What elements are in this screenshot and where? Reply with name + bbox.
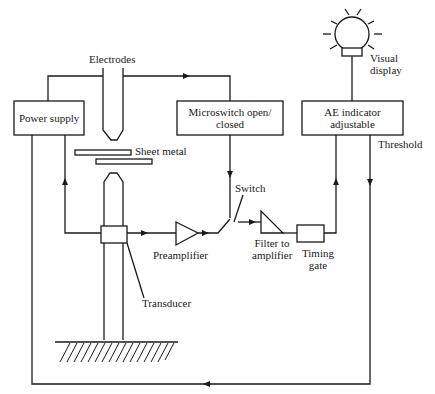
label-microswitch-line2: closed — [177, 118, 283, 130]
label-visual-line1: Visual — [370, 52, 402, 64]
label-timing-line2: gate — [298, 259, 338, 271]
label-timing-line1: Timing — [298, 247, 338, 259]
preamplifier-triangle — [176, 222, 198, 245]
arrow-left-icon — [203, 381, 210, 387]
arrow-up-icon — [333, 178, 339, 185]
arrow-right-icon — [183, 73, 190, 79]
wire-electrode-to-microswitch — [48, 76, 230, 101]
switch-pointer — [234, 195, 243, 222]
label-threshold: Threshold — [378, 138, 423, 150]
label-ae-line2: adjustable — [302, 118, 403, 130]
label-power-supply: Power supply — [19, 112, 79, 124]
label-electrodes: Electrodes — [89, 53, 135, 65]
label-ae-indicator: AE indicator adjustable — [302, 106, 403, 130]
label-preamplifier: Preamplifier — [153, 249, 208, 261]
transducer-box — [101, 226, 127, 243]
transducer-pointer — [127, 243, 144, 298]
sheet-metal-lower — [96, 159, 152, 164]
sheet-metal-upper — [75, 150, 131, 155]
label-filter-line1: Filter to — [252, 237, 292, 249]
visual-display-lamp — [323, 9, 382, 56]
label-transducer: Transducer — [142, 297, 191, 309]
label-timing-gate: Timing gate — [298, 247, 338, 271]
upper-electrode — [103, 68, 123, 140]
label-filter: Filter to amplifier — [252, 237, 292, 261]
arrow-right-icon — [202, 230, 209, 236]
label-filter-line2: amplifier — [252, 249, 292, 261]
arrow-right-icon — [249, 219, 256, 225]
label-switch: Switch — [235, 182, 266, 194]
arrow-down-icon — [227, 171, 233, 178]
arrow-up-icon — [62, 178, 68, 185]
arrow-down-icon — [367, 179, 373, 186]
label-sheet-metal: Sheet metal — [135, 145, 187, 157]
label-microswitch-line1: Microswitch open/ — [177, 106, 283, 118]
filter-triangle — [261, 211, 283, 233]
label-ae-line1: AE indicator — [302, 106, 403, 118]
arrow-right-icon — [141, 230, 148, 236]
timing-gate-box — [297, 225, 324, 242]
ground-hatch — [60, 343, 174, 362]
label-visual-display: Visual display — [370, 52, 402, 76]
lower-electrode — [104, 173, 123, 340]
label-microswitch: Microswitch open/ closed — [177, 106, 283, 130]
label-visual-line2: display — [370, 64, 402, 76]
